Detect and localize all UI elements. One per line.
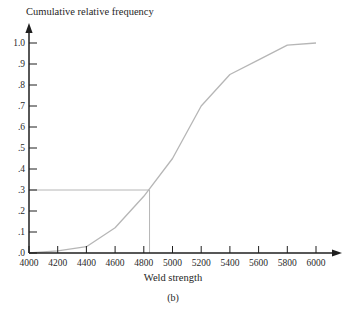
x-tick-label: 4400 [77, 258, 96, 268]
x-tick-label: 5800 [278, 258, 297, 268]
x-axis-label: Weld strength [29, 272, 317, 283]
x-tick-label: 5600 [249, 258, 268, 268]
x-tick-label: 4800 [134, 258, 153, 268]
y-tick-label: .9 [18, 59, 25, 69]
y-tick-label: .0 [18, 248, 25, 258]
y-tick-label: .5 [18, 143, 25, 153]
y-tick-label: .4 [18, 164, 25, 174]
y-tick-label: .2 [18, 206, 25, 216]
y-tick-label: .3 [18, 185, 25, 195]
reference-lines [29, 190, 150, 253]
x-tick-label: 4600 [106, 258, 125, 268]
x-tick-label: 4200 [48, 258, 67, 268]
y-tick-label: .1 [18, 227, 25, 237]
x-tick-label: 4000 [20, 258, 39, 268]
y-tick-label: .6 [18, 122, 25, 132]
x-tick-label: 6000 [307, 258, 326, 268]
x-tick-label: 5200 [192, 258, 211, 268]
x-tick-label: 5000 [163, 258, 182, 268]
chart-canvas: .0.1.2.3.4.5.6.7.8.91.040004200440046004… [0, 0, 347, 310]
y-tick-label: .7 [18, 101, 25, 111]
x-axis-arrowhead [332, 249, 342, 256]
figure-caption: (b) [29, 292, 317, 303]
ogive-curve [29, 43, 316, 253]
x-tick-label: 5400 [220, 258, 239, 268]
ogive-chart-figure: Cumulative relative frequency .0.1.2.3.4… [0, 0, 347, 310]
y-tick-label: .8 [18, 80, 25, 90]
y-tick-label: 1.0 [13, 38, 25, 48]
y-axis-arrowhead [25, 23, 32, 33]
